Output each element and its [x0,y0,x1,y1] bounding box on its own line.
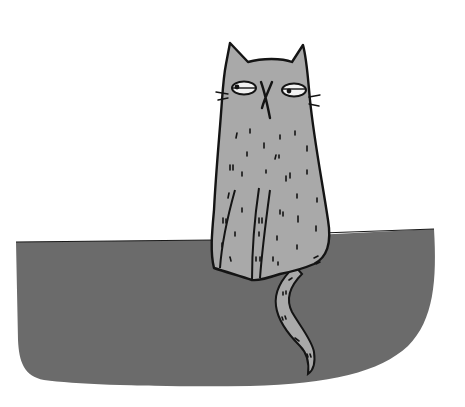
cat-body [212,43,330,280]
illustration-scene [0,0,465,407]
cat-illustration [0,0,465,407]
cat-eye-right [282,84,306,97]
